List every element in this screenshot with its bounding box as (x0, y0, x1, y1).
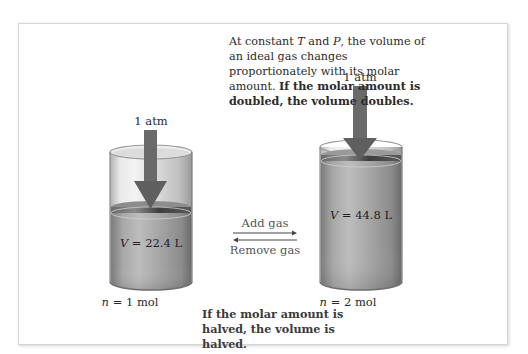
var-temperature: T (297, 35, 304, 48)
volume-value: = 44.8 L (338, 208, 392, 222)
moles-var: n (102, 295, 109, 309)
caption-part: and (305, 35, 333, 48)
add-gas-label: Add gas (220, 216, 310, 230)
pressure-label-left: 1 atm (121, 114, 181, 128)
bottom-note: If the molar amount is halved, the volum… (202, 307, 382, 352)
volume-label-left: V = 22.4 L (106, 236, 196, 250)
remove-gas-label: Remove gas (220, 243, 310, 257)
volume-var: V (330, 208, 338, 222)
moles-value: = 1 mol (109, 295, 158, 309)
volume-label-right: V = 44.8 L (316, 208, 406, 222)
volume-value: = 22.4 L (128, 236, 182, 250)
volume-var: V (120, 236, 128, 250)
equilibrium-arrows (233, 231, 297, 243)
pressure-label-right: 1 atm (330, 70, 390, 84)
caption-text: At constant T and P, the volume of an id… (229, 34, 429, 109)
caption-part: At constant (229, 35, 297, 48)
moles-label-left: n = 1 mol (80, 295, 180, 309)
